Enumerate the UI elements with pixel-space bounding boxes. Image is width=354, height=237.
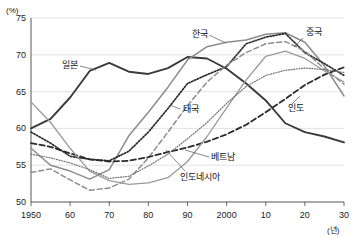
x-tick-label: 80: [143, 210, 153, 220]
chart-canvas: 505560657075 1950607080902000102030 일본한국…: [0, 0, 354, 237]
leader-line: [209, 35, 226, 43]
series-annotation-2: 중국: [306, 27, 322, 37]
x-tick-label: 60: [65, 210, 75, 220]
series-annotation-4: 인도: [288, 103, 304, 113]
x-tick-label: 20: [300, 210, 310, 220]
x-tick-label: 10: [261, 210, 271, 220]
series-line: [31, 51, 344, 184]
y-tick-label: 50: [16, 197, 26, 207]
series-annotations: 일본한국중국태국인도베트남인도네시아: [62, 27, 322, 182]
x-tick-label: 90: [182, 210, 192, 220]
y-axis-unit-label: (%): [6, 6, 19, 15]
x-tick-label: 30: [339, 210, 349, 220]
y-axis-tick-labels: 505560657075: [16, 13, 26, 207]
series-annotation-0: 일본: [62, 60, 78, 70]
y-tick-label: 65: [16, 87, 26, 97]
x-axis-unit-label: (년): [327, 225, 340, 235]
series-annotation-6: 인도네시아: [180, 172, 221, 182]
series-line: [31, 67, 344, 161]
x-axis-tick-labels: 1950607080902000102030: [21, 210, 349, 220]
leader-line: [170, 105, 180, 109]
y-tick-label: 70: [16, 50, 26, 60]
series-annotation-1: 한국: [192, 29, 208, 39]
y-tick-label: 60: [16, 123, 26, 133]
series-line: [31, 33, 344, 160]
leader-line: [166, 150, 185, 171]
x-tick-label: 2000: [217, 210, 237, 220]
series-annotation-3: 태국: [183, 104, 199, 114]
tick-marks: [31, 202, 344, 206]
x-tick-label: 70: [104, 210, 114, 220]
leader-line: [185, 150, 209, 157]
y-tick-label: 55: [16, 160, 26, 170]
x-tick-label: 1950: [21, 210, 41, 220]
line-chart: 505560657075 1950607080902000102030 일본한국…: [0, 0, 354, 237]
leader-line: [80, 66, 96, 70]
series-annotation-5: 베트남: [211, 152, 235, 162]
